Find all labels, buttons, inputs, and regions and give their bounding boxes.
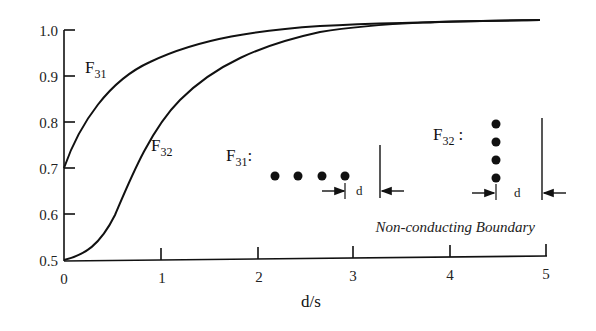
distance-label: d bbox=[356, 183, 363, 198]
conductor-dot bbox=[318, 172, 327, 181]
y-tick-labels: 0.5 0.6 0.7 0.8 0.9 1.0 bbox=[39, 23, 58, 269]
x-tick-label: 4 bbox=[446, 267, 454, 283]
conductor-dot bbox=[492, 156, 501, 165]
f31-inset-label: F31: bbox=[226, 146, 252, 169]
y-tick-label: 0.9 bbox=[39, 69, 58, 85]
f32-inset-diagram: F32: d bbox=[433, 118, 566, 200]
y-tick-label: 0.6 bbox=[39, 207, 58, 223]
f32-curve-label: F32 bbox=[151, 136, 172, 159]
x-tick-labels: 0 1 2 3 4 5 bbox=[60, 266, 550, 287]
chart-canvas: 0.5 0.6 0.7 0.8 0.9 1.0 0 1 2 3 4 5 d/s … bbox=[0, 0, 596, 331]
x-axis-label: d/s bbox=[301, 292, 321, 311]
x-tick-label: 3 bbox=[349, 268, 357, 284]
x-tick-label: 0 bbox=[60, 271, 68, 287]
f31-curve bbox=[64, 20, 540, 168]
y-tick-label: 0.8 bbox=[39, 115, 58, 131]
conductor-dot bbox=[492, 174, 501, 183]
x-axis bbox=[64, 244, 547, 261]
conductor-dot bbox=[271, 172, 280, 181]
y-tick-label: 0.5 bbox=[39, 253, 58, 269]
y-tick-label: 0.7 bbox=[39, 161, 58, 177]
f32-inset-label: F32: bbox=[433, 125, 463, 148]
conductor-dot bbox=[341, 172, 350, 181]
x-tick-label: 5 bbox=[542, 266, 550, 282]
x-tick-label: 1 bbox=[158, 270, 166, 286]
distance-label: d bbox=[514, 185, 521, 200]
y-tick-label: 1.0 bbox=[39, 23, 58, 39]
boundary-caption: Non-conducting Boundary bbox=[374, 219, 535, 235]
x-tick-label: 2 bbox=[255, 269, 263, 285]
conductor-dot bbox=[492, 138, 501, 147]
conductor-dot bbox=[294, 172, 303, 181]
f31-curve-label: F31 bbox=[85, 58, 106, 81]
conductor-dot bbox=[492, 120, 501, 129]
f31-inset-diagram: F31: d bbox=[226, 145, 404, 199]
